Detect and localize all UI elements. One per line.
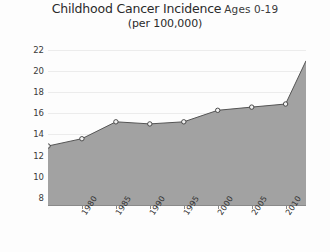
data-point-marker	[216, 108, 220, 112]
chart-subtitle: (per 100,000)	[0, 17, 330, 31]
y-axis-tick-label: 18	[18, 88, 44, 96]
data-point-marker	[283, 102, 287, 106]
data-point-marker	[148, 122, 152, 126]
y-axis-tick-label: 16	[18, 109, 44, 117]
chart-title-age-range: Ages 0-19	[224, 3, 278, 15]
chart-title-block: Childhood Cancer IncidenceAges 0-19 (per…	[0, 1, 330, 31]
data-point-marker	[182, 120, 186, 124]
y-axis-tick-label: 12	[18, 152, 44, 160]
data-point-marker	[250, 105, 254, 109]
x-axis: 1980198519901995200020052010	[0, 206, 330, 252]
page-title: Childhood Cancer Incidence	[52, 1, 222, 16]
area-series	[48, 44, 306, 206]
data-point-marker	[80, 137, 84, 141]
chart-title-line: Childhood Cancer IncidenceAges 0-19	[0, 1, 330, 16]
y-axis-tick-label: 22	[18, 46, 44, 54]
chart-screenshot: Childhood Cancer IncidenceAges 0-19 (per…	[0, 0, 330, 252]
y-axis-tick-label: 10	[18, 173, 44, 181]
y-axis-tick-label: 8	[18, 194, 44, 202]
data-point-marker	[48, 144, 50, 148]
data-point-marker	[114, 120, 118, 124]
y-axis-tick-label: 14	[18, 130, 44, 138]
y-axis-tick-label: 20	[18, 67, 44, 75]
plot-area	[48, 44, 306, 206]
